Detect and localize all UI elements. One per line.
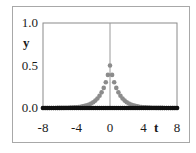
x-axis-label: t — [154, 120, 159, 135]
x-tick-label: -4 — [71, 120, 82, 135]
x-tick-label: 8 — [174, 120, 181, 135]
x-tick-labels: -8-4048 — [38, 120, 181, 135]
series-baseline — [41, 106, 180, 111]
chart: 0.00.51.0 -8-4048 y t — [0, 0, 196, 153]
x-tick-label: 4 — [140, 120, 147, 135]
data-point — [101, 86, 106, 91]
data-point — [112, 80, 117, 85]
data-point — [104, 80, 109, 85]
y-tick-label: 0.0 — [22, 100, 38, 115]
x-tick-label: 0 — [107, 120, 114, 135]
y-tick-labels: 0.00.51.0 — [22, 15, 38, 115]
data-point — [110, 73, 115, 78]
x-tick-label: -8 — [38, 120, 49, 135]
data-point — [108, 63, 113, 68]
data-point — [175, 106, 180, 111]
y-tick-label: 1.0 — [22, 15, 38, 30]
y-axis-label: y — [23, 35, 30, 50]
data-point — [99, 90, 104, 95]
plot-area — [41, 23, 180, 110]
data-point — [106, 73, 111, 78]
y-tick-label: 0.5 — [22, 58, 38, 73]
data-point — [114, 86, 119, 91]
